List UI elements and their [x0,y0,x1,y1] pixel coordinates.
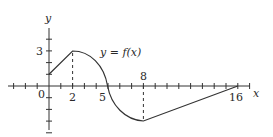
x-tick-label-2: 2 [69,91,76,104]
curve-label: y = f(x) [99,46,141,59]
origin-label: 0 [38,88,45,101]
x-axis-label: x [253,87,260,100]
x-tick-label-8: 8 [140,70,147,83]
y-tick-label-3: 3 [36,45,43,58]
x-tick-label-5: 5 [99,91,106,104]
function-graph: y x y = f(x) 0 2 5 8 16 3 [0,0,273,137]
x-tick-label-16: 16 [229,91,243,104]
y-axis-label: y [44,12,52,25]
